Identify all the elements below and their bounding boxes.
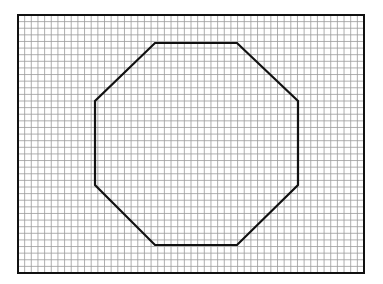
grid-lines <box>18 15 364 273</box>
octagon-shape <box>95 43 298 245</box>
grid-octagon-figure <box>0 0 383 284</box>
